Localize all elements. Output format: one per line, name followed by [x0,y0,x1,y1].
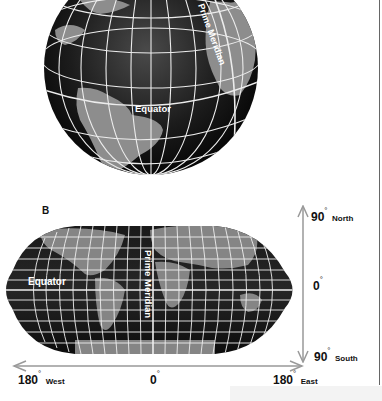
bottom-band [230,386,382,401]
latitude-zero-label: 0° [313,276,323,294]
world-map-diagram: Equator Prime Meridian [0,190,300,370]
globe-diagram: Equator Prime Meridian [0,0,382,200]
latitude-arrow [296,205,310,363]
right-border [379,0,380,385]
map-prime-meridian-label: Prime Meridian [143,250,154,318]
longitude-west-label: 180° West [18,370,65,388]
map-equator-label: Equator [28,276,66,287]
latitude-north-label: 90° North [311,207,353,225]
globe-equator-label: Equator [135,103,171,114]
latitude-south-label: 90° South [314,347,358,365]
longitude-zero-label: 0° [150,370,160,388]
